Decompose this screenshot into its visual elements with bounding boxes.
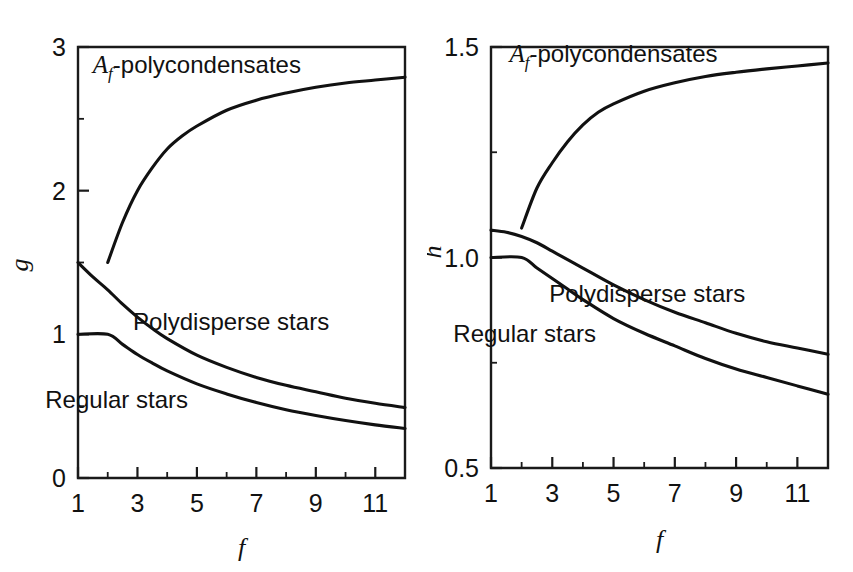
x-tick-label: 3	[131, 489, 145, 517]
curve-label-af-polycondensates: Af-polycondensates	[91, 51, 301, 83]
curve-label-regular-stars: Regular stars	[453, 320, 596, 347]
chart-svg-right: 13579110.51.01.5fhAf-polycondensatesPoly…	[427, 0, 853, 572]
x-tick-label: 9	[729, 479, 743, 507]
y-tick-label: 1.5	[444, 33, 479, 61]
x-tick-label: 7	[668, 479, 682, 507]
chart-panel-right: 13579110.51.01.5fhAf-polycondensatesPoly…	[427, 0, 853, 572]
y-tick-label: 1	[52, 320, 66, 348]
x-tick-label: 5	[190, 489, 204, 517]
curve-af-polycondensates	[108, 77, 405, 262]
x-tick-label: 7	[249, 489, 263, 517]
plot-frame	[78, 47, 405, 478]
curve-label-regular-stars: Regular stars	[45, 386, 188, 413]
x-tick-label: 3	[545, 479, 559, 507]
chart-panel-left: 13579110123fgAf-polycondensatesPolydispe…	[0, 0, 427, 572]
curve-label-polydisperse-stars: Polydisperse stars	[549, 280, 745, 307]
y-tick-label: 0.5	[444, 454, 479, 482]
figure-container: 13579110123fgAf-polycondensatesPolydispe…	[0, 0, 853, 572]
curve-regular-stars	[78, 334, 405, 429]
plot-frame	[491, 47, 828, 468]
curve-label-polydisperse-stars: Polydisperse stars	[133, 308, 329, 335]
curve-af-polycondensates	[522, 63, 828, 228]
chart-svg-left: 13579110123fgAf-polycondensatesPolydispe…	[0, 0, 427, 572]
x-axis-title: f	[238, 533, 249, 562]
curve-label-af-polycondensates: Af-polycondensates	[507, 40, 717, 72]
y-tick-label: 2	[52, 177, 66, 205]
y-tick-label: 1.0	[444, 244, 479, 272]
y-axis-title: g	[5, 259, 34, 272]
x-tick-label: 9	[309, 489, 323, 517]
y-tick-label: 0	[52, 464, 66, 492]
x-tick-label: 5	[607, 479, 621, 507]
x-tick-label: 1	[484, 479, 498, 507]
y-axis-title: h	[427, 246, 447, 259]
x-tick-label: 11	[362, 489, 388, 517]
x-tick-label: 1	[71, 489, 85, 517]
x-axis-title: f	[656, 525, 667, 554]
y-tick-label: 3	[52, 33, 66, 61]
x-tick-label: 11	[784, 479, 810, 507]
